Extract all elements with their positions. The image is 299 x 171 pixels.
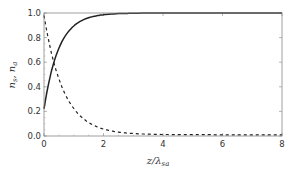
series-n-a-line (44, 16, 282, 135)
y-tick-label: 0.6 (27, 57, 41, 67)
x-axis-label: z/λsa (146, 155, 170, 168)
line-chart: 0.00.20.40.60.81.0 02468 z/λsa ns, na (0, 0, 299, 171)
y-axis-ticks: 0.00.20.40.60.81.0 (27, 8, 282, 141)
x-tick-label: 2 (101, 139, 106, 149)
y-tick-label: 0.8 (27, 33, 41, 43)
x-tick-label: 0 (41, 139, 46, 149)
plot-frame (44, 13, 282, 136)
y-tick-label: 0.4 (27, 82, 41, 92)
y-tick-label: 0.2 (27, 106, 41, 116)
plot-series (44, 13, 282, 135)
series-n-s-line (44, 13, 282, 109)
x-tick-label: 6 (220, 139, 225, 149)
y-tick-label: 0.0 (27, 131, 41, 141)
x-tick-label: 4 (160, 139, 165, 149)
y-axis-label: ns, na (6, 61, 19, 88)
x-tick-label: 8 (279, 139, 284, 149)
x-axis-ticks: 02468 (41, 13, 284, 149)
y-tick-label: 1.0 (27, 8, 41, 18)
